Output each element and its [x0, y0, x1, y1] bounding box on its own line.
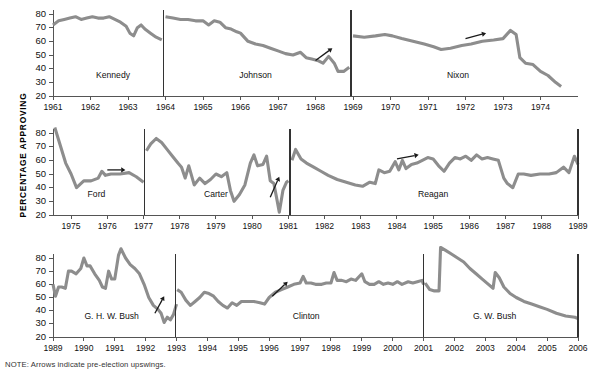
x-tick-label: 1974: [531, 102, 550, 112]
y-tick-label: 60: [35, 35, 46, 46]
series-line-g-w-bush: [425, 247, 578, 318]
x-tick-label: 2002: [445, 343, 464, 353]
y-tick-label: 20: [35, 209, 46, 220]
y-tick-label: 80: [35, 252, 46, 263]
president-label: Kennedy: [96, 70, 131, 80]
x-tick-label: 1967: [268, 102, 287, 112]
x-tick-label: 1962: [81, 102, 100, 112]
y-tick-label: 70: [35, 140, 46, 151]
x-tick-label: 1963: [118, 102, 137, 112]
upswing-arrow-line: [397, 156, 415, 159]
president-label: Reagan: [418, 189, 448, 199]
x-tick-label: 2006: [568, 343, 587, 353]
chart-svg: 2030405060708019611962196319641965196619…: [0, 0, 606, 377]
y-tick-label: 30: [35, 317, 46, 328]
y-tick-label: 50: [35, 168, 46, 179]
x-tick-label: 1989: [568, 221, 587, 231]
x-tick-label: 1990: [74, 343, 93, 353]
x-tick-label: 1996: [260, 343, 279, 353]
y-tick-label: 80: [35, 8, 46, 19]
x-tick-label: 2003: [476, 343, 495, 353]
x-tick-label: 1986: [460, 221, 479, 231]
y-axis-title: PERCENTAGE APPROVING: [18, 85, 28, 225]
y-tick-label: 20: [35, 331, 46, 342]
upswing-arrow-line: [466, 34, 483, 38]
x-tick-label: 1993: [167, 343, 186, 353]
x-tick-label: 1997: [290, 343, 309, 353]
y-tick-label: 30: [35, 195, 46, 206]
y-tick-label: 30: [35, 76, 46, 87]
y-tick-label: 50: [35, 291, 46, 302]
x-tick-label: 1966: [231, 102, 250, 112]
y-tick-label: 70: [35, 265, 46, 276]
president-label: Carter: [204, 189, 228, 199]
x-tick-label: 1976: [98, 221, 117, 231]
x-tick-label: 2004: [507, 343, 526, 353]
series-line-johnson: [166, 17, 350, 72]
x-tick-label: 1969: [343, 102, 362, 112]
x-tick-label: 1964: [156, 102, 175, 112]
panel-row-1: 2030405060708019611962196319641965196619…: [35, 8, 578, 112]
president-label: Clinton: [293, 311, 320, 321]
x-tick-label: 1982: [315, 221, 334, 231]
x-tick-label: 1975: [62, 221, 81, 231]
x-tick-label: 1965: [193, 102, 212, 112]
x-tick-label: 1973: [493, 102, 512, 112]
x-tick-label: 1999: [352, 343, 371, 353]
president-label: G. H. W. Bush: [84, 311, 139, 321]
x-tick-label: 2000: [383, 343, 402, 353]
y-tick-label: 40: [35, 181, 46, 192]
x-tick-label: 1995: [229, 343, 248, 353]
x-tick-label: 1970: [381, 102, 400, 112]
x-tick-label: 1980: [243, 221, 262, 231]
x-tick-label: 2001: [414, 343, 433, 353]
y-tick-label: 40: [35, 304, 46, 315]
y-tick-label: 80: [35, 127, 46, 138]
series-line-carter: [146, 138, 288, 212]
series-line-clinton: [177, 272, 423, 308]
series-line-reagan: [292, 149, 578, 187]
x-tick-label: 1988: [532, 221, 551, 231]
x-tick-label: 1972: [456, 102, 475, 112]
panel-row-3: 2030405060708019891990199119921993199419…: [35, 247, 587, 353]
x-tick-label: 1961: [43, 102, 62, 112]
president-label: Ford: [88, 189, 106, 199]
panel-row-2: 2030405060708019751976197719781979198019…: [35, 127, 587, 231]
series-line-ford: [55, 128, 144, 188]
x-tick-label: 1977: [134, 221, 153, 231]
x-tick-label: 1991: [105, 343, 124, 353]
x-tick-label: 1978: [170, 221, 189, 231]
x-tick-label: 1998: [321, 343, 340, 353]
x-tick-label: 1989: [43, 343, 62, 353]
y-tick-label: 50: [35, 49, 46, 60]
x-tick-label: 1985: [424, 221, 443, 231]
x-tick-label: 1979: [206, 221, 225, 231]
x-tick-label: 2005: [538, 343, 557, 353]
president-label: G. W. Bush: [473, 311, 517, 321]
president-label: Nixon: [447, 70, 469, 80]
series-line-kennedy: [53, 17, 162, 40]
x-tick-label: 1987: [496, 221, 515, 231]
x-tick-label: 1994: [198, 343, 217, 353]
y-tick-label: 40: [35, 62, 46, 73]
y-tick-label: 20: [35, 90, 46, 101]
chart-note: NOTE: Arrows indicate pre-election upswi…: [5, 360, 166, 369]
x-tick-label: 1981: [279, 221, 298, 231]
upswing-arrow-head: [481, 32, 486, 37]
x-tick-label: 1968: [306, 102, 325, 112]
x-tick-label: 1983: [351, 221, 370, 231]
y-tick-label: 60: [35, 278, 46, 289]
president-label: Johnson: [239, 70, 272, 80]
x-tick-label: 1984: [387, 221, 406, 231]
x-tick-label: 1992: [136, 343, 155, 353]
approval-chart: 2030405060708019611962196319641965196619…: [0, 0, 606, 377]
y-tick-label: 60: [35, 154, 46, 165]
x-tick-label: 1971: [418, 102, 437, 112]
y-tick-label: 70: [35, 21, 46, 32]
upswing-arrow-head: [414, 153, 419, 158]
